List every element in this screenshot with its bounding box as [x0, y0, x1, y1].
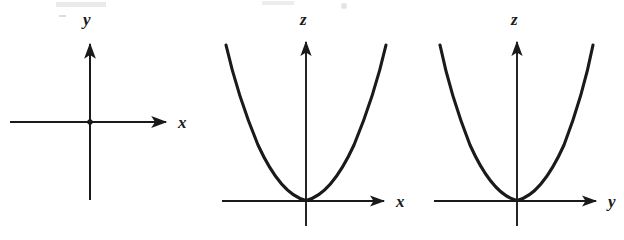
- panel2-z-axis-label: z: [299, 10, 307, 29]
- panel1-x-axis-label: x: [177, 113, 187, 132]
- panel3-z-axis-label: z: [510, 10, 518, 29]
- panel-z-vs-y-parabola: y z: [434, 10, 616, 226]
- panel1-origin-dot: [87, 119, 92, 124]
- figure-canvas: x y x z y z: [0, 0, 624, 240]
- panel2-x-axis-label: x: [395, 192, 405, 211]
- panel1-y-axis-label: y: [81, 10, 91, 29]
- panel-z-vs-x-parabola: x z: [222, 10, 405, 226]
- panel3-y-axis-label: y: [606, 192, 616, 211]
- figure-svg: x y x z y z: [0, 0, 624, 240]
- panel-xy-axes: x y: [10, 10, 187, 200]
